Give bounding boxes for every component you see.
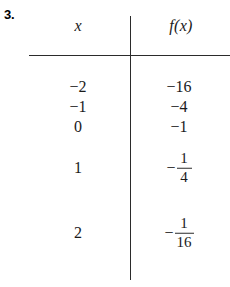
function-table: x f(x) −2 −16 −1 −4 0 −1 1 − 1 4 <box>0 0 230 287</box>
fraction-numerator: 1 <box>178 216 190 233</box>
fx-fraction-value: − 1 4 <box>166 151 191 186</box>
cell-x-value: 1 <box>34 160 122 176</box>
fraction-minus-sign: − <box>166 160 175 176</box>
cell-fx-value: − 1 16 <box>136 216 222 251</box>
fx-plain-value: −1 <box>170 119 187 135</box>
column-header-fx: f(x) <box>136 18 226 34</box>
cell-fx-value: −1 <box>136 119 222 135</box>
cell-x-value: 2 <box>34 225 122 241</box>
fraction-minus-sign: − <box>164 225 173 241</box>
fx-plain-value: −4 <box>170 99 187 115</box>
fx-fraction-value: − 1 16 <box>164 216 193 251</box>
column-header-x: x <box>30 18 126 34</box>
cell-fx-value: −4 <box>136 99 222 115</box>
column-divider <box>130 16 131 280</box>
fraction-numerator: 1 <box>178 151 190 168</box>
cell-fx-value: −16 <box>136 79 222 95</box>
fraction-denominator: 4 <box>178 169 190 186</box>
fraction: 1 4 <box>177 151 192 186</box>
cell-fx-value: − 1 4 <box>136 151 222 186</box>
fraction-denominator: 16 <box>175 234 194 251</box>
cell-x-value: 0 <box>34 119 122 135</box>
cell-x-value: −2 <box>34 79 122 95</box>
fx-plain-value: −16 <box>166 79 191 95</box>
fraction: 1 16 <box>175 216 194 251</box>
cell-x-value: −1 <box>34 99 122 115</box>
